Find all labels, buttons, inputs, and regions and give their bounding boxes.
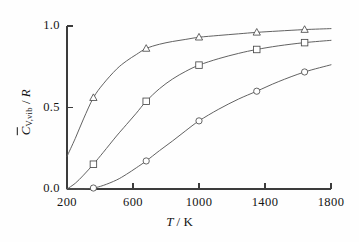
x-axis-tick-label-3: 1400 [237,196,293,209]
x-axis-tick-label-2: 1000 [171,196,227,209]
marker-triangle-0-0 [90,94,97,101]
chart-series-group [67,26,331,191]
marker-circle-2-4 [301,69,307,75]
x-axis-unit: K [183,214,192,229]
marker-circle-2-0 [90,185,96,191]
y-axis-subscript: V,vib [24,107,34,126]
y-axis-unit: R [18,89,33,97]
x-axis-separator: / [173,214,183,229]
marker-square-1-1 [143,98,150,105]
marker-square-1-3 [254,46,261,53]
series-line-upper-curve [67,29,331,157]
x-axis-tick-label-0: 200 [39,196,95,209]
series-lower-curve [67,65,331,191]
chart-tick-marks [67,26,331,189]
x-axis-tick-label-4: 1800 [303,196,359,209]
y-axis-separator: / [18,97,33,107]
marker-square-1-4 [301,39,308,46]
y-axis-tick-label-2: 1.0 [18,19,60,32]
y-axis-symbol: C [18,127,34,136]
chart-axes [67,26,331,189]
y-axis-title: CV,vib / R [18,32,34,192]
x-axis-title: T / K [0,214,359,230]
series-line-lower-curve [67,65,331,189]
series-middle-curve [67,39,331,189]
series-upper-curve [67,26,331,157]
marker-circle-2-2 [196,118,202,124]
chart-figure: 0.00.51.0 200600100014001800 CV,vib / R … [0,0,359,242]
marker-square-1-2 [196,62,203,68]
marker-circle-2-3 [254,88,260,94]
x-axis-tick-label-1: 600 [105,196,161,209]
marker-circle-2-1 [143,158,149,164]
marker-square-1-0 [90,161,97,168]
